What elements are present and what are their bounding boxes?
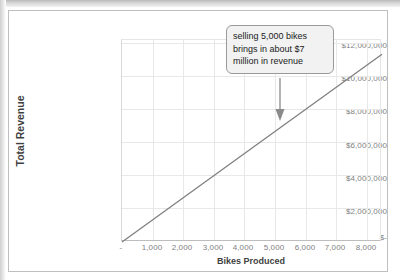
scan-shadow-top <box>0 0 400 7</box>
scan-shadow-left <box>0 0 6 280</box>
x-axis-title: Bikes Produced <box>151 256 351 266</box>
y-axis-title: Total Revenue <box>14 81 26 181</box>
annotation-line-2: brings in about $7 <box>233 43 328 56</box>
x-tick-label: 8,000 <box>346 243 386 252</box>
annotation-arrow-icon <box>264 78 296 123</box>
revenue-line <box>122 54 382 242</box>
annotation-line-3: million in revenue <box>233 55 328 68</box>
chart-frame: Total Revenue $12,000,000 $10,000,000 $8… <box>8 10 388 272</box>
annotation-line-1: selling 5,000 bikes <box>233 30 328 43</box>
chart-screenshot: Total Revenue $12,000,000 $10,000,000 $8… <box>0 0 400 280</box>
annotation-callout: selling 5,000 bikes brings in about $7 m… <box>226 25 334 74</box>
